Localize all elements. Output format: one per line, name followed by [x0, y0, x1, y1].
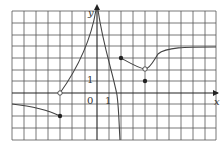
closed-point: [58, 114, 62, 118]
open-point: [143, 67, 147, 71]
x-axis-label: x: [214, 97, 220, 107]
grid: [12, 11, 216, 140]
closed-point: [119, 56, 123, 60]
open-point: [58, 91, 62, 95]
closed-point: [143, 79, 147, 83]
y-axis-arrow-icon: [94, 4, 100, 10]
x-unit-label: 1: [105, 96, 111, 106]
y-unit-label: 1: [87, 75, 93, 85]
y-axis-label: y: [88, 8, 94, 18]
graph: [0, 0, 223, 149]
axes: [12, 6, 218, 140]
origin-label: 0: [87, 96, 93, 106]
